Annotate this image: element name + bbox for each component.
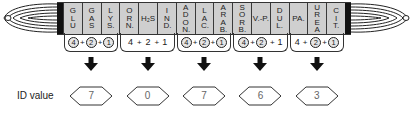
down-arrow-icon: [141, 57, 155, 71]
id-value-hexagon: 0: [126, 86, 170, 106]
score-group-3: 4+ 2+ 1: [177, 33, 231, 52]
strip-right-cap: [345, 3, 351, 34]
score-group-2: 4+ 2+ 1: [120, 33, 174, 52]
well-label: GAS: [88, 7, 95, 29]
well-label: SORB.: [239, 4, 246, 34]
id-value-row: 7 0 7 6 3: [63, 86, 345, 106]
down-arrow-icon: [253, 57, 267, 71]
well-label: PA.: [292, 15, 304, 22]
well-label: IND.: [163, 7, 170, 29]
down-arrow-icon: [310, 57, 324, 71]
down-arrow-icon: [197, 57, 211, 71]
plus-sign: +: [155, 38, 160, 47]
well-cit: CIT.: [326, 3, 345, 34]
well-adon: ADON.: [176, 3, 195, 34]
id-value-hexagon: 3: [295, 86, 339, 106]
score-group-5: 4+ 2+ 1: [290, 33, 344, 52]
well-lac: LAC.: [195, 3, 214, 34]
score-4: 4: [238, 37, 249, 48]
plus-sign: +: [322, 38, 327, 47]
score-4: 4: [68, 37, 79, 48]
well-orn: ORN.: [119, 3, 138, 34]
well-label: LYS.: [107, 7, 114, 29]
well-label: V.-P.: [253, 15, 269, 22]
id-value-hexagon: 7: [182, 86, 226, 106]
score-1: 1: [103, 37, 114, 48]
plus-sign: +: [270, 38, 275, 47]
score-2: 2: [310, 37, 321, 48]
plus-sign: +: [211, 38, 216, 47]
well-vp: V.-P.: [251, 3, 270, 34]
id-value-label: ID value: [17, 90, 54, 101]
score-groups: 4+ 2+ 1 4+ 2+ 1 4+ 2+ 1 4+ 2+ 1 4+ 2+ 1: [63, 33, 345, 52]
score-1: 1: [278, 37, 283, 47]
well-label: DUL.: [276, 7, 283, 29]
well-label: ORN.: [126, 7, 133, 29]
well-pa: PA.: [289, 3, 308, 34]
score-1: 1: [162, 37, 167, 47]
id-value: 0: [126, 86, 170, 106]
id-value: 7: [182, 86, 226, 106]
plus-sign: +: [193, 38, 198, 47]
plus-sign: +: [80, 38, 85, 47]
score-4: 4: [128, 37, 133, 47]
plus-sign: +: [137, 38, 142, 47]
well-h2s: H₂S: [138, 3, 157, 34]
test-strip: GLU GAS LYS. ORN. H₂S IND. ADON. LAC. AR…: [57, 2, 351, 35]
plus-sign: +: [303, 38, 308, 47]
id-value: 7: [69, 86, 113, 106]
score-group-4: 4+ 2+ 1: [233, 33, 287, 52]
score-1: 1: [216, 37, 227, 48]
plus-sign: +: [98, 38, 103, 47]
score-2: 2: [146, 37, 151, 47]
well-sorb: SORB.: [232, 3, 251, 34]
well-label: GLU: [69, 7, 76, 29]
well-label: LAC.: [201, 7, 208, 29]
well-arab: ARAB.: [213, 3, 232, 34]
id-value: 3: [295, 86, 339, 106]
id-value: 6: [238, 86, 282, 106]
plus-sign: +: [250, 38, 255, 47]
score-4: 4: [181, 37, 192, 48]
well-gas: GAS: [82, 3, 101, 34]
well-glu: GLU: [63, 3, 82, 34]
score-2: 2: [199, 37, 210, 48]
id-value-hexagon: 6: [238, 86, 282, 106]
score-1: 1: [328, 37, 339, 48]
down-arrow-icon: [84, 57, 98, 71]
well-dul: DUL.: [270, 3, 289, 34]
right-swab-end-icon: [351, 0, 415, 36]
well-urea: UREA: [307, 3, 326, 34]
score-2: 2: [256, 37, 267, 48]
well-label: ADON.: [182, 4, 189, 34]
well-ind: IND.: [157, 3, 176, 34]
score-2: 2: [86, 37, 97, 48]
well-lys: LYS.: [101, 3, 120, 34]
left-swab-end-icon: [0, 0, 60, 36]
score-4: 4: [295, 37, 300, 47]
arrow-row: [63, 57, 345, 71]
well-label: UREA: [314, 4, 321, 34]
well-label: H₂S: [141, 15, 155, 22]
well-label: CIT.: [333, 7, 340, 29]
id-value-hexagon: 7: [69, 86, 113, 106]
well-label: ARAB.: [220, 4, 227, 34]
score-group-1: 4+ 2+ 1: [64, 33, 118, 52]
